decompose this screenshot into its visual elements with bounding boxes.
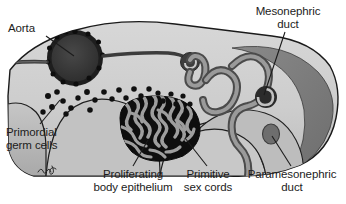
label-mesonephric-duct: Mesonephric duct [243, 5, 333, 30]
paramesonephric-duct [263, 124, 280, 144]
label-aorta: Aorta [8, 22, 35, 35]
label-primitive-sex-cords: Primitive sex cords [173, 168, 243, 193]
label-paramesonephric-duct: Paramesonephric duct [238, 168, 346, 193]
label-primordial-germ-cells: Primordial germ cells [6, 126, 57, 151]
anatomical-figure: Aorta Mesonephric duct Primordial germ c… [0, 0, 346, 204]
